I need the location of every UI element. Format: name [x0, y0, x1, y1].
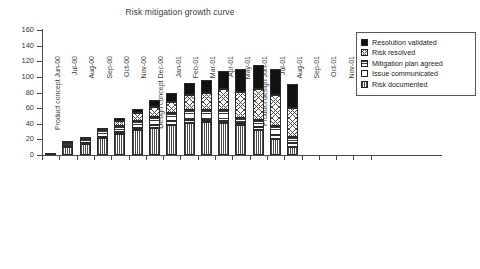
bar-7 — [149, 100, 160, 155]
x-axis-tick — [77, 156, 78, 160]
bar-segment — [132, 121, 143, 127]
legend-item-label: Risk resolved — [372, 48, 415, 57]
y-axis-tick-label: 40 — [2, 119, 34, 128]
bar-segment — [287, 143, 298, 147]
bar-segment — [166, 121, 177, 124]
bar-segment — [149, 100, 160, 107]
y-axis-tick — [37, 93, 42, 94]
x-axis-tick-label: Sep-01 — [313, 56, 320, 161]
x-axis-tick — [42, 156, 43, 160]
x-axis-tick — [336, 156, 337, 160]
bar-segment — [235, 92, 246, 118]
x-axis-tick — [94, 156, 95, 160]
x-axis-tick — [371, 156, 372, 160]
y-axis-tick — [37, 46, 42, 47]
bar-segment — [166, 125, 177, 155]
bar-segment — [218, 89, 229, 110]
bar-segment — [80, 144, 91, 155]
x-axis-tick — [353, 156, 354, 160]
bar-segment — [201, 80, 212, 93]
bar-segment — [80, 139, 91, 143]
x-axis-tick-label: Nov-01 — [348, 56, 355, 161]
bar-1 — [45, 153, 56, 155]
x-axis-tick — [250, 156, 251, 160]
bar-segment — [287, 137, 298, 143]
bar-segment — [184, 110, 195, 119]
y-axis-tick — [37, 124, 42, 125]
bar-segment — [62, 143, 73, 145]
bar-segment — [97, 128, 108, 130]
legend-item: Resolution validated — [361, 38, 471, 47]
y-axis-tick — [37, 108, 42, 109]
bar-segment — [132, 128, 143, 130]
bar-segment — [132, 113, 143, 122]
bar-6 — [132, 109, 143, 155]
bar-segment — [235, 123, 246, 125]
bar-segment — [201, 122, 212, 155]
y-axis-tick — [37, 61, 42, 62]
bar-segment — [218, 123, 229, 155]
bar-segment — [62, 141, 73, 143]
bar-segment — [270, 69, 281, 95]
y-axis-tick-label: 160 — [2, 25, 34, 34]
bar-segment — [114, 134, 125, 155]
legend-item: Mitigation plan agreed — [361, 59, 471, 68]
bar-segment — [97, 138, 108, 155]
bar-segment — [149, 107, 160, 116]
y-axis-tick-label: 80 — [2, 88, 34, 97]
chart-title: Risk mitigation growth curve — [0, 7, 360, 17]
y-axis-line — [42, 29, 43, 156]
y-axis-tick-label: 140 — [2, 41, 34, 50]
legend-item: Risk resolved — [361, 48, 471, 57]
bar-segment — [184, 95, 195, 111]
bar-segment — [97, 130, 108, 137]
y-axis-tick — [37, 30, 42, 31]
bar-segment — [166, 113, 177, 122]
bar-segment — [149, 125, 160, 128]
legend-item-label: Risk documented — [372, 80, 428, 89]
bar-15 — [287, 84, 298, 155]
bar-segment — [287, 147, 298, 155]
legend-swatch-icon — [361, 49, 368, 56]
legend-swatch-icon — [361, 70, 368, 77]
x-axis-tick — [302, 156, 303, 160]
x-axis-tick — [111, 156, 112, 160]
y-axis-tick — [37, 139, 42, 140]
y-axis-tick-label: 120 — [2, 56, 34, 65]
x-axis-tick — [284, 156, 285, 160]
bar-segment — [149, 128, 160, 155]
bar-14 — [270, 69, 281, 155]
bar-segment — [235, 118, 246, 123]
bar-12 — [235, 69, 246, 155]
x-axis-tick — [146, 156, 147, 160]
x-axis-tick — [198, 156, 199, 160]
y-axis-tick-label: 0 — [2, 150, 34, 159]
bar-segment — [253, 120, 264, 127]
bar-segment — [132, 109, 143, 113]
bar-segment — [114, 118, 125, 121]
bar-segment — [218, 71, 229, 88]
bar-2 — [62, 143, 73, 156]
bar-3 — [80, 138, 91, 155]
bar-segment — [80, 137, 91, 139]
y-axis-tick — [37, 77, 42, 78]
x-axis-tick-label: Product concept Jun-00 — [54, 56, 61, 161]
bar-4 — [97, 128, 108, 155]
bar-segment — [184, 123, 195, 155]
bar-13 — [253, 65, 264, 155]
chart-legend: Resolution validatedRisk resolvedMitigat… — [356, 32, 476, 96]
bar-segment — [270, 95, 281, 126]
bar-segment — [132, 130, 143, 155]
x-axis-tick — [59, 156, 60, 160]
legend-item-label: Issue communicated — [372, 69, 438, 78]
x-axis-tick — [319, 156, 320, 160]
bar-segment — [149, 117, 160, 125]
legend-swatch-icon — [361, 39, 368, 46]
bar-8 — [166, 93, 177, 155]
bar-segment — [270, 126, 281, 135]
legend-swatch-icon — [361, 81, 368, 88]
bar-segment — [166, 93, 177, 102]
x-axis-tick — [129, 156, 130, 160]
legend-item-label: Mitigation plan agreed — [372, 59, 443, 68]
legend-swatch-icon — [361, 60, 368, 67]
